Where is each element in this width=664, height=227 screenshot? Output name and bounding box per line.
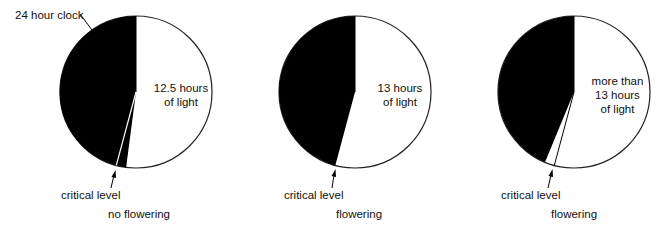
dark-sector (60, 16, 136, 167)
light-label-3: more than 13 hours of light (580, 74, 655, 116)
critical-level-label-1: critical level (61, 188, 120, 202)
light-label-2: 13 hours of light (365, 81, 435, 109)
arrow-up-icon (332, 169, 337, 177)
outcome-label-3: flowering (551, 207, 597, 221)
arrow-up-icon (549, 169, 554, 177)
outcome-label-1: no flowering (108, 207, 170, 221)
critical-level-label-2: critical level (284, 188, 343, 202)
clock-label: 24 hour clock (15, 8, 83, 22)
arrow-up-icon (112, 170, 117, 178)
outcome-label-2: flowering (336, 207, 382, 221)
light-label-1: 12.5 hours of light (146, 81, 216, 109)
critical-level-label-3: critical level (501, 188, 560, 202)
